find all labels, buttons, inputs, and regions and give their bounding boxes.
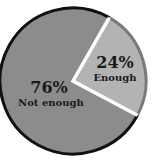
label-enough: 24% Enough [92,55,138,83]
label-enough-pct: 24% [92,55,138,71]
label-not-enough-caption: Not enough [18,98,80,108]
label-enough-caption: Enough [92,73,138,83]
label-not-enough-pct: 76% [18,80,80,96]
label-not-enough: 76% Not enough [18,80,80,108]
